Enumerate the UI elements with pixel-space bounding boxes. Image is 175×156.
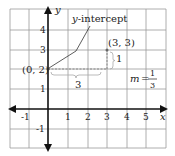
svg-text:1: 1 xyxy=(150,69,155,78)
point-3-3-label: (3, 3) xyxy=(108,37,135,48)
svg-text:-1: -1 xyxy=(21,112,30,122)
run-label: 3 xyxy=(75,79,81,90)
svg-text:3: 3 xyxy=(40,45,46,55)
y-axis-up-arrow-icon xyxy=(44,6,52,14)
y-intercept-leader xyxy=(49,26,90,68)
svg-text:1: 1 xyxy=(65,112,71,122)
y-intercept-label: y-intercept xyxy=(71,13,127,24)
svg-text:3: 3 xyxy=(104,112,110,122)
y-axis-label: y xyxy=(54,4,61,15)
svg-text:5: 5 xyxy=(143,112,149,122)
svg-text:-1: -1 xyxy=(36,124,45,134)
slope-annotation: m = 1 3 xyxy=(130,69,157,90)
svg-text:1: 1 xyxy=(40,84,46,94)
svg-text:m: m xyxy=(130,73,139,84)
svg-text:3: 3 xyxy=(150,81,155,90)
svg-text:=: = xyxy=(141,73,149,84)
x-axis-label: x xyxy=(160,111,166,122)
svg-text:4: 4 xyxy=(40,25,46,35)
x-axis-left-arrow-icon xyxy=(8,105,16,113)
coordinate-plane: y x y-intercept (0, 2) (3, 3) 1 3 m = 1 … xyxy=(0,0,175,156)
svg-text:2: 2 xyxy=(85,112,91,122)
x-tick-labels: -1 1 2 3 4 5 xyxy=(21,112,149,122)
rise-label: 1 xyxy=(116,53,122,64)
point-0-2-label: (0, 2) xyxy=(22,64,49,75)
svg-text:4: 4 xyxy=(124,112,130,122)
point-3-3 xyxy=(106,49,109,52)
y-tick-labels: 4 3 1 -1 xyxy=(36,25,46,134)
run-brace xyxy=(51,72,101,78)
rise-brace xyxy=(110,52,115,69)
rise-run-lines xyxy=(48,50,107,69)
